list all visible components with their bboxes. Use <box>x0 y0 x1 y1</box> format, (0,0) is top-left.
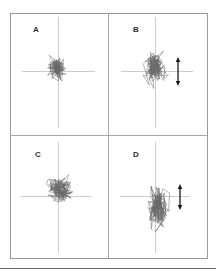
panel-label-c: C <box>35 150 41 159</box>
sway-trace <box>47 55 65 81</box>
stabilogram-figure: A B C D <box>0 0 216 275</box>
panel-c <box>20 142 92 253</box>
sway-trace <box>149 186 170 232</box>
sway-trace <box>47 174 73 202</box>
panel-d <box>120 142 190 253</box>
panel-label-d: D <box>133 150 139 159</box>
double-arrow-icon <box>178 184 183 210</box>
panel-label-b: B <box>133 25 139 34</box>
panel-b <box>121 17 193 128</box>
panel-label-a: A <box>33 25 39 34</box>
